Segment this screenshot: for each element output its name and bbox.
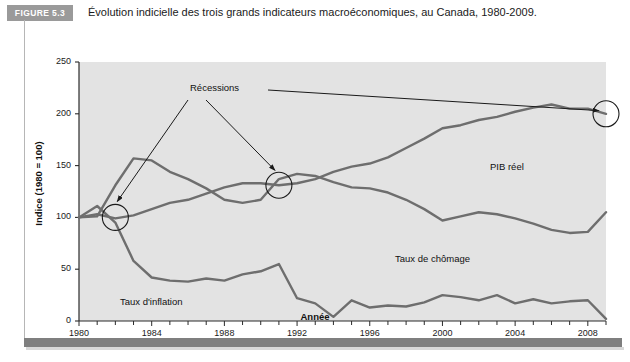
axes-group: [75, 62, 606, 326]
x-tick-label: 1980: [59, 328, 99, 338]
series-label-taux-d-inflation: Taux d'inflation: [120, 296, 183, 307]
x-tick-label: 2000: [422, 328, 462, 338]
y-tick-label: 0: [37, 315, 71, 325]
y-tick-label: 200: [37, 108, 71, 118]
recessions-annotation-label: Récessions: [190, 82, 239, 93]
y-tick-label: 150: [37, 160, 71, 170]
y-tick-label: 250: [37, 56, 71, 66]
series-label-pib-r-el: PIB réel: [490, 161, 524, 172]
figure-container: FIGURE 5.3 Évolution indicielle des troi…: [0, 0, 630, 362]
chart-area: Indice (1980 = 100) Année 05010015020025…: [0, 28, 630, 333]
recession-arrow: [206, 100, 275, 170]
series-group: [79, 104, 606, 318]
x-tick-label: 2008: [568, 328, 608, 338]
figure-caption: Évolution indicielle des trois grands in…: [88, 5, 608, 19]
frame-bottom-bar: [24, 338, 622, 347]
figure-number-badge: FIGURE 5.3: [7, 5, 73, 21]
x-tick-label: 1992: [277, 328, 317, 338]
x-axis-title: Année: [0, 311, 630, 322]
y-axis-title: Indice (1980 = 100): [33, 99, 44, 269]
y-tick-label: 50: [37, 263, 71, 273]
frame-bottom-shadow: [26, 347, 624, 350]
y-tick-label: 100: [37, 211, 71, 221]
x-tick-label: 1996: [350, 328, 390, 338]
recession-arrow: [117, 100, 188, 201]
x-tick-label: 1984: [132, 328, 172, 338]
recession-arrow: [268, 90, 599, 111]
chart-svg: [0, 28, 630, 333]
series-line-pib-r-el: [79, 104, 606, 218]
annotations-group: [102, 90, 619, 230]
x-tick-label: 2004: [495, 328, 535, 338]
x-tick-label: 1988: [204, 328, 244, 338]
series-label-taux-de-ch-mage: Taux de chômage: [395, 253, 470, 264]
